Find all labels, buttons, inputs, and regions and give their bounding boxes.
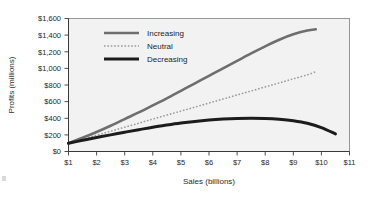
x-tick-label-8: $8 [261,158,269,167]
y-tick-label-200: $200 [44,131,61,140]
x-tick-label-3: $3 [121,158,129,167]
x-tick-label-5: $5 [177,158,185,167]
x-tick-label-10: $10 [315,158,328,167]
scan-artifact [2,176,6,181]
x-tick-label-2: $2 [92,158,100,167]
y-tick-label-1600: $1,600 [38,14,61,23]
y-tick-label-800: $800 [44,81,61,90]
y-tick-label-1400: $1,400 [38,31,61,40]
x-tick-label-7: $7 [233,158,241,167]
y-tick-label-1200: $1,200 [38,48,61,57]
x-tick-label-9: $9 [289,158,297,167]
y-tick-label-600: $600 [44,97,61,106]
plot-area-background [69,19,350,152]
y-tick-label-0: $0 [53,147,61,156]
y-tick-label-400: $400 [44,114,61,123]
y-axis-title: Profits (millions) [7,56,16,113]
x-tick-label-11: $11 [344,158,356,167]
legend-label-increasing: Increasing [147,29,184,38]
x-axis-title: Sales (billions) [183,177,235,186]
y-tick-label-1000: $1,000 [38,64,61,73]
legend-label-decreasing: Decreasing [147,55,187,64]
legend-label-neutral: Neutral [147,42,173,51]
x-tick-label-4: $4 [149,158,157,167]
x-tick-label-1: $1 [64,158,72,167]
x-tick-label-6: $6 [205,158,213,167]
profit-sales-line-chart: $0 $200 $400 $600 $800 $1,000 $1,200 $1,… [0,0,377,198]
